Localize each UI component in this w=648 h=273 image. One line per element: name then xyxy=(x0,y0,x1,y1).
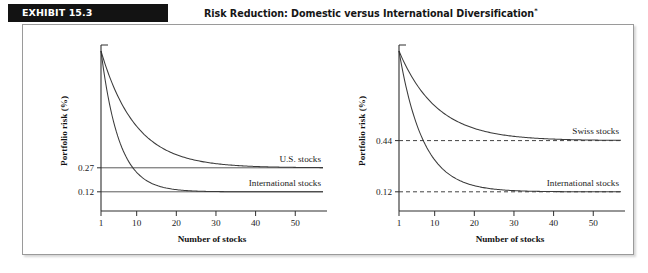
x-tick-label-30: 30 xyxy=(509,218,519,228)
x-tick-label-40: 40 xyxy=(549,218,559,228)
curve-international-stocks xyxy=(399,51,621,192)
x-axis-title: Number of stocks xyxy=(178,234,247,244)
y-tick-label-0.44: 0.44 xyxy=(376,136,392,146)
curve-label-international-stocks: International stocks xyxy=(249,178,322,188)
x-tick-label-20: 20 xyxy=(470,218,480,228)
chart-panel-international: 0.440.12Swiss stocksInternational stocks… xyxy=(333,25,629,254)
x-tick-label-30: 30 xyxy=(211,218,221,228)
curve-label-swiss-stocks: Swiss stocks xyxy=(572,126,619,136)
exhibit-title-text: Risk Reduction: Domestic versus Internat… xyxy=(204,8,534,19)
chart-panel-domestic: 0.270.12U.S. stocksInternational stocks1… xyxy=(35,25,331,254)
x-tick-label-50: 50 xyxy=(291,218,301,228)
x-tick-label-10: 10 xyxy=(430,218,440,228)
x-axis-title: Number of stocks xyxy=(476,234,545,244)
curve-label-international-stocks: International stocks xyxy=(547,178,620,188)
x-tick-label-10: 10 xyxy=(132,218,142,228)
y-tick-label-0.27: 0.27 xyxy=(78,163,94,173)
y-axis-title: Portfolio risk (%) xyxy=(357,96,367,166)
exhibit-header: EXHIBIT 15.3 Risk Reduction: Domestic ve… xyxy=(8,4,640,22)
exhibit-number-label: EXHIBIT 15.3 xyxy=(22,7,93,18)
y-axis-title: Portfolio risk (%) xyxy=(59,96,69,166)
footnote-marker: * xyxy=(534,7,537,15)
curve-label-u-s-stocks: U.S. stocks xyxy=(279,154,321,164)
curve-u-s-stocks xyxy=(101,51,323,168)
exhibit-tag-banner: EXHIBIT 15.3 xyxy=(8,4,168,22)
chart-right-svg: 0.440.12Swiss stocksInternational stocks… xyxy=(333,25,629,254)
curve-international-stocks xyxy=(101,51,323,192)
x-tick-label-50: 50 xyxy=(589,218,599,228)
y-tick-label-0.12: 0.12 xyxy=(78,187,94,197)
x-tick-label-1: 1 xyxy=(397,218,402,228)
x-tick-label-1: 1 xyxy=(99,218,104,228)
x-tick-label-40: 40 xyxy=(251,218,261,228)
exhibit-content-frame: 0.270.12U.S. stocksInternational stocks1… xyxy=(22,24,634,255)
exhibit-title: Risk Reduction: Domestic versus Internat… xyxy=(204,7,538,19)
y-tick-label-0.12: 0.12 xyxy=(376,187,392,197)
x-tick-label-20: 20 xyxy=(172,218,182,228)
chart-left-svg: 0.270.12U.S. stocksInternational stocks1… xyxy=(35,25,331,254)
